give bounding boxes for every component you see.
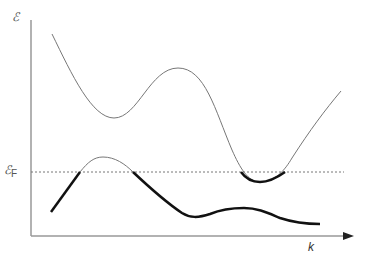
x-axis-label: k bbox=[308, 240, 314, 254]
x-axis-arrow-icon bbox=[343, 232, 354, 240]
fermi-level-label: ℰF bbox=[4, 163, 17, 179]
lower-band-peak bbox=[80, 157, 133, 172]
lower-band-occupied-left bbox=[51, 172, 80, 212]
fermi-subscript: F bbox=[11, 168, 17, 179]
lower-band-occupied-right bbox=[133, 172, 320, 224]
fermi-symbol: ℰ bbox=[4, 163, 11, 177]
upper-band-curve bbox=[52, 34, 341, 182]
band-diagram bbox=[0, 0, 367, 265]
upper-band-occupied bbox=[241, 172, 285, 182]
y-axis-label: ℰ bbox=[12, 10, 19, 24]
